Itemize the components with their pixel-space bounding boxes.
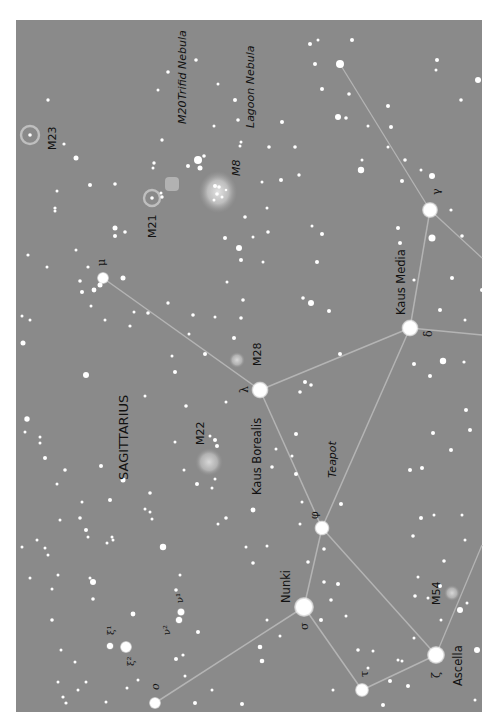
- label-kaus-borealis: Kaus Borealis: [250, 418, 264, 495]
- greek-xi2: ξ²: [125, 656, 136, 666]
- star-icon: [224, 516, 228, 520]
- star-icon: [347, 92, 351, 96]
- star-icon: [367, 667, 370, 670]
- star-icon: [297, 173, 300, 176]
- star-icon: [112, 539, 115, 542]
- star-icon: [350, 38, 354, 42]
- star-icon: [313, 62, 317, 66]
- star-icon: [327, 309, 331, 313]
- star-icon: [123, 230, 127, 234]
- star-icon: [61, 695, 64, 698]
- star-icon: [126, 687, 129, 690]
- star-icon: [223, 236, 227, 240]
- label-ascella: Ascella: [451, 645, 465, 686]
- star-icon: [329, 598, 333, 602]
- star-icon: [413, 637, 416, 640]
- star-icon: [420, 169, 423, 172]
- greek-lambda: λ: [238, 386, 251, 393]
- star-icon: [36, 539, 39, 542]
- star-icon: [306, 560, 310, 564]
- star-icon: [198, 166, 203, 171]
- star-icon: [440, 619, 443, 622]
- star-icon: [438, 308, 442, 312]
- star-ascella-icon: [427, 646, 445, 664]
- star-icon: [211, 487, 214, 490]
- star-icon: [317, 39, 320, 42]
- star-icon: [160, 138, 163, 141]
- star-nu2-icon: [176, 617, 183, 624]
- star-icon: [56, 483, 59, 486]
- label-lagoon-nebula: Lagoon Nebula: [244, 45, 257, 128]
- star-icon: [450, 276, 454, 280]
- label-nunki: Nunki: [279, 570, 293, 603]
- star-icon: [339, 502, 343, 506]
- label-m23: M23: [46, 127, 59, 151]
- star-icon: [179, 574, 182, 577]
- star-icon: [160, 192, 163, 195]
- star-icon: [83, 372, 89, 378]
- star-icon: [251, 561, 255, 565]
- star-icon: [260, 659, 265, 664]
- star-omicron-icon: [149, 697, 161, 709]
- star-icon: [226, 281, 229, 284]
- star-icon: [311, 225, 314, 228]
- star-tau-icon: [355, 683, 369, 697]
- star-icon: [320, 232, 324, 236]
- star-icon: [214, 478, 217, 481]
- star-icon: [194, 58, 198, 62]
- star-icon: [193, 701, 197, 705]
- star-icon: [104, 319, 107, 322]
- star-icon: [387, 146, 390, 149]
- star-icon: [62, 142, 65, 145]
- greek-sigma: σ: [298, 622, 311, 630]
- star-icon: [113, 182, 117, 186]
- star-icon: [389, 125, 393, 129]
- star-icon: [279, 178, 283, 182]
- star-icon: [99, 464, 103, 468]
- greek-phi: φ: [308, 511, 321, 519]
- star-icon: [406, 684, 410, 688]
- constellation-label: SAGITTARIUS: [116, 395, 131, 480]
- star-icon: [398, 241, 402, 245]
- star-icon: [239, 258, 243, 262]
- star-icon: [440, 358, 446, 364]
- star-icon: [261, 181, 264, 184]
- star-icon: [428, 374, 432, 378]
- star-icon: [266, 207, 269, 210]
- star-icon: [181, 653, 184, 656]
- star-icon: [396, 226, 400, 230]
- star-icon: [474, 699, 477, 702]
- star-icon: [24, 416, 29, 421]
- star-icon: [85, 681, 88, 684]
- star-icon: [397, 659, 400, 662]
- star-icon: [252, 236, 255, 239]
- star-icon: [151, 518, 154, 521]
- star-icon: [203, 352, 207, 356]
- star-icon: [87, 536, 90, 539]
- star-icon: [29, 319, 32, 322]
- star-icon: [236, 118, 240, 122]
- star-icon: [108, 498, 112, 502]
- star-icon: [400, 179, 404, 183]
- asterism-label: Teapot: [326, 440, 339, 478]
- star-icon: [59, 519, 62, 522]
- m8-icon: [199, 171, 237, 213]
- star-icon: [63, 468, 67, 472]
- star-icon: [429, 173, 435, 179]
- label-m21: M21: [146, 215, 159, 239]
- star-icon: [213, 438, 217, 442]
- star-icon: [184, 675, 187, 678]
- star-icon: [372, 650, 375, 653]
- star-icon: [240, 702, 244, 706]
- star-icon: [239, 316, 243, 320]
- star-icon: [188, 333, 191, 336]
- star-icon: [356, 648, 360, 652]
- label-m8: M8: [230, 160, 243, 177]
- star-gamma-icon: [422, 202, 438, 218]
- star-icon: [51, 588, 54, 591]
- star-icon: [86, 265, 89, 268]
- star-icon: [202, 154, 206, 158]
- star-icon: [57, 574, 60, 577]
- star-icon: [266, 545, 269, 548]
- star-icon: [322, 547, 326, 551]
